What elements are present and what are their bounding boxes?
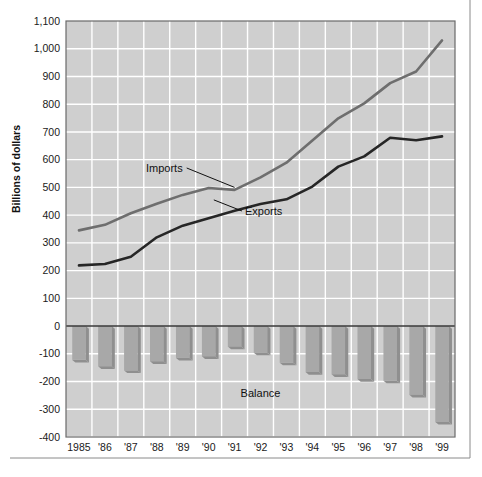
balance-bar bbox=[150, 326, 167, 364]
x-tick-label: '93 bbox=[280, 441, 294, 453]
x-tick-label: '98 bbox=[409, 441, 423, 453]
x-tick-label: '96 bbox=[357, 441, 371, 453]
balance-bar bbox=[98, 326, 115, 369]
y-tick-label: 200 bbox=[42, 264, 60, 276]
y-tick-label: 1,100 bbox=[34, 15, 60, 27]
y-tick-label: 0 bbox=[54, 320, 60, 332]
balance-label: Balance bbox=[241, 387, 281, 399]
y-tick-label: 1,000 bbox=[34, 42, 60, 54]
x-tick-label: '92 bbox=[254, 441, 268, 453]
y-tick-label: -100 bbox=[39, 347, 60, 359]
balance-bar bbox=[383, 326, 400, 383]
x-tick-label: '90 bbox=[202, 441, 216, 453]
y-tick-label: -200 bbox=[39, 375, 60, 387]
x-tick-label: '97 bbox=[383, 441, 397, 453]
chart-figure: 1,1001,0009008007006005004003002001000-1… bbox=[0, 0, 482, 477]
balance-bar bbox=[409, 326, 426, 397]
balance-bar bbox=[306, 326, 323, 375]
y-tick-label: -300 bbox=[39, 403, 60, 415]
x-tick-label: '99 bbox=[435, 441, 449, 453]
x-tick-label: '88 bbox=[150, 441, 164, 453]
balance-bar bbox=[332, 326, 349, 377]
x-tick-label: '87 bbox=[124, 441, 138, 453]
x-tick-label: '94 bbox=[306, 441, 320, 453]
y-tick-label: 600 bbox=[42, 153, 60, 165]
x-tick-label: '95 bbox=[331, 441, 345, 453]
y-tick-label: 900 bbox=[42, 70, 60, 82]
balance-bar bbox=[280, 326, 297, 365]
y-tick-label: 400 bbox=[42, 209, 60, 221]
y-tick-label: 700 bbox=[42, 126, 60, 138]
x-tick-label: '89 bbox=[176, 441, 190, 453]
balance-bar bbox=[357, 326, 374, 382]
y-tick-label: 100 bbox=[42, 292, 60, 304]
x-tick-label: 1985 bbox=[67, 441, 91, 453]
x-tick-label: '91 bbox=[228, 441, 242, 453]
trade-balance-chart: 1,1001,0009008007006005004003002001000-1… bbox=[0, 0, 482, 477]
balance-bar bbox=[435, 326, 452, 425]
balance-bar bbox=[254, 326, 271, 355]
y-tick-label: -400 bbox=[39, 431, 60, 443]
balance-bar bbox=[228, 326, 245, 349]
balance-bar bbox=[176, 326, 193, 360]
balance-bar bbox=[202, 326, 219, 359]
y-tick-label: 800 bbox=[42, 98, 60, 110]
y-tick-label: 300 bbox=[42, 236, 60, 248]
exports-label: Exports bbox=[245, 205, 283, 217]
x-tick-label: '86 bbox=[98, 441, 112, 453]
balance-bar bbox=[124, 326, 141, 373]
x-axis-tick-labels: 1985'86'87'88'89'90'91'92'93'94'95'96'97… bbox=[67, 441, 449, 453]
y-tick-label: 500 bbox=[42, 181, 60, 193]
y-axis-title: Billions of dollars bbox=[10, 125, 22, 213]
balance-bar bbox=[72, 326, 89, 362]
imports-label: Imports bbox=[146, 162, 183, 174]
